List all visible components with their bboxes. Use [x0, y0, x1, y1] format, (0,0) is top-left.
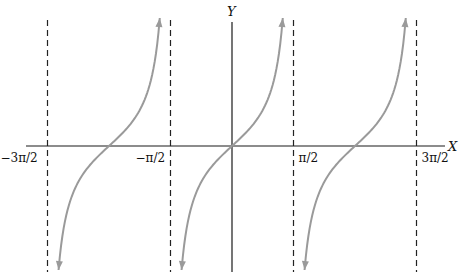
- x-tick-label: −π/2: [136, 151, 166, 165]
- x-tick-label: 3π/2: [422, 151, 449, 165]
- x-tick-label: π/2: [299, 151, 319, 165]
- tangent-chart: −3π/2−π/2π/23π/2 X Y: [0, 0, 465, 277]
- x-axis-label: X: [447, 139, 458, 154]
- y-axis-label: Y: [227, 4, 237, 19]
- x-tick-label: −3π/2: [0, 151, 37, 165]
- tan-branch-left: [59, 18, 160, 270]
- tan-branch-right: [305, 18, 406, 270]
